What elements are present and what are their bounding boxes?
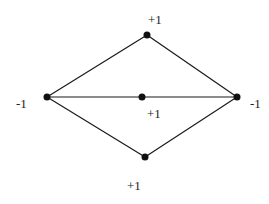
label-left: -1	[16, 96, 27, 111]
label-top: +1	[148, 12, 162, 27]
nodes	[44, 32, 241, 161]
edge-left-top	[47, 35, 147, 97]
node-right	[234, 94, 241, 101]
node-top	[144, 32, 151, 39]
node-labels: +1 -1 +1 -1 +1	[16, 12, 261, 193]
label-center: +1	[147, 106, 161, 121]
node-left	[44, 94, 51, 101]
label-bottom: +1	[127, 178, 141, 193]
node-bottom	[142, 154, 149, 161]
label-right: -1	[250, 96, 261, 111]
graph-diagram: +1 -1 +1 -1 +1	[0, 0, 269, 204]
node-center	[139, 94, 146, 101]
edge-top-right	[147, 35, 237, 97]
edge-left-bottom	[47, 97, 145, 157]
